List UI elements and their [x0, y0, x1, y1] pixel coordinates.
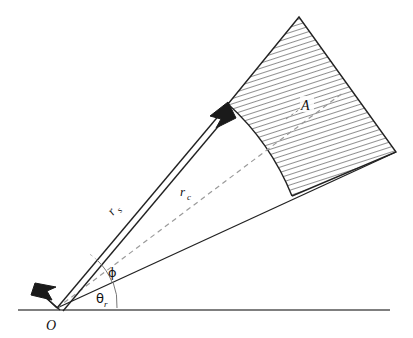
- origin-label: O: [46, 318, 56, 333]
- lower-bounding-ray: [57, 152, 396, 308]
- phi-arc-extension: [88, 253, 97, 260]
- center-range-label: r: [180, 184, 186, 199]
- center-range-dashed-line: [57, 92, 344, 308]
- reverse-arrow-head: [31, 283, 60, 310]
- area-label-group: A: [300, 96, 314, 113]
- theta-label: θ: [96, 291, 104, 306]
- theta-label-group: θ r: [96, 291, 108, 309]
- phi-label: ϕ: [108, 265, 117, 280]
- slant-range-label-group: r s: [104, 200, 125, 220]
- center-range-label-group: r c: [180, 184, 191, 202]
- center-range-sublabel: c: [187, 192, 191, 202]
- theta-angle-arc: [113, 282, 117, 308]
- diagram-canvas: O r s r c A θ r ϕ: [0, 0, 413, 338]
- theta-sublabel: r: [104, 299, 108, 309]
- slant-range-vector: [57, 102, 236, 311]
- area-label: A: [300, 98, 310, 113]
